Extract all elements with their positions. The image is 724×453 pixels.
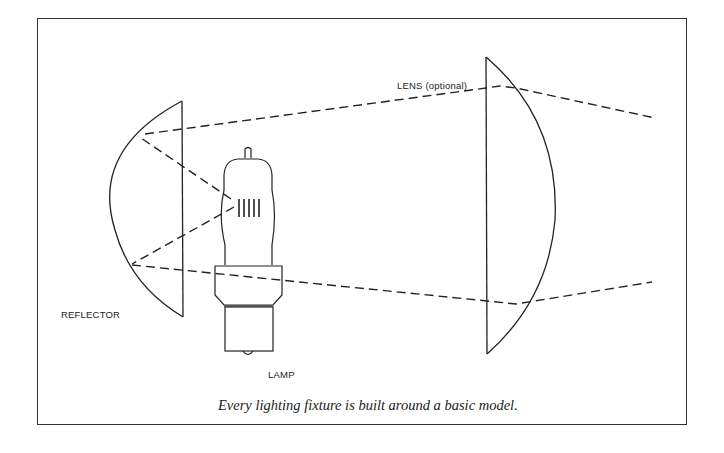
lens [486,57,555,354]
lens-label: LENS (optional) [397,80,467,91]
fixture-diagram [0,0,724,453]
lamp [215,148,282,355]
lamp-label: LAMP [268,369,295,380]
light-rays [132,86,655,304]
reflector-label: REFLECTOR [61,309,120,320]
filament-icon [239,199,259,217]
figure-caption: Every lighting fixture is built around a… [218,397,518,414]
